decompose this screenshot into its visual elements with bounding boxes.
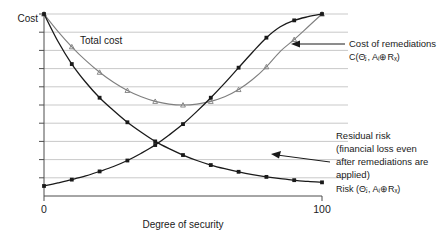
x-axis-label: Degree of security [142, 219, 223, 230]
data-point-marker [181, 153, 185, 157]
risk-label-line2: (financial loss even [336, 143, 417, 154]
x-tick-label-min: 0 [41, 203, 47, 215]
remediation-label-line2: C(Θⱼ, Aᵢ⊕Rₓ) [349, 52, 400, 62]
data-point-marker [153, 143, 157, 147]
risk-label-line4: applied) [336, 169, 370, 180]
data-point-marker [292, 178, 296, 182]
data-point-marker [237, 170, 241, 174]
x-tick-label-max: 100 [313, 203, 331, 215]
data-point-marker [70, 62, 74, 66]
data-point-marker [292, 18, 296, 22]
chart-svg: Cost 0 100 Degree of security Total cost… [0, 0, 448, 235]
data-point-marker [70, 178, 74, 182]
remediation-label-line1: Cost of remediations [349, 38, 436, 49]
data-point-marker [42, 184, 46, 188]
data-point-marker [320, 180, 324, 184]
data-point-marker [237, 66, 241, 70]
data-point-marker [181, 122, 185, 126]
data-point-marker [126, 159, 130, 163]
data-point-marker [209, 96, 213, 100]
data-point-marker [265, 175, 269, 179]
data-point-marker [98, 170, 102, 174]
data-point-marker [98, 96, 102, 100]
data-point-marker [320, 12, 324, 16]
data-point-marker [153, 140, 157, 144]
data-point-marker [126, 120, 130, 124]
data-point-marker [265, 36, 269, 40]
risk-label-line5: Risk (Θⱼ, Aᵢ⊕Rₓ) [336, 184, 400, 194]
chart-background [0, 0, 448, 235]
data-point-marker [209, 163, 213, 167]
data-point-marker [42, 12, 46, 16]
total-cost-label: Total cost [80, 35, 122, 46]
risk-label-line1: Residual risk [336, 130, 391, 141]
y-axis-label: Cost [17, 13, 38, 24]
risk-label-line3: after remediations are [336, 156, 428, 167]
chart-figure: Cost 0 100 Degree of security Total cost… [0, 0, 448, 235]
